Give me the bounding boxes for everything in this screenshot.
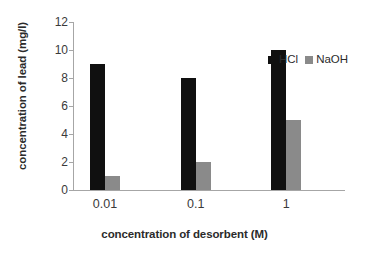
y-axis-title: concentration of lead (mg/l): [12, 0, 32, 196]
x-axis-tick-labels: 0.010.11: [73, 196, 345, 214]
x-axis-line: [73, 190, 345, 191]
bar-naoh-0.01: [105, 176, 120, 190]
y-axis-tick-label: 4: [44, 128, 68, 140]
bar-chart-figure: concentration of lead (mg/l) 121086420 0…: [0, 0, 369, 257]
bar-naoh-0.1: [196, 162, 211, 190]
legend-entry-naoh: NaOH: [305, 54, 348, 65]
bar-hcl-0.01: [90, 64, 105, 190]
y-axis-tick-label: 2: [44, 156, 68, 168]
legend-label: HCl: [279, 54, 298, 65]
plot-area: [73, 22, 345, 190]
x-axis-tick-label: 0.01: [75, 196, 135, 212]
bar-naoh-1: [286, 120, 301, 190]
y-axis-tick-mark: [69, 190, 73, 191]
legend-label: NaOH: [316, 54, 348, 65]
y-axis-tick-mark: [69, 22, 73, 23]
y-axis-tick-label: 10: [44, 44, 68, 56]
y-axis-tick-mark: [69, 78, 73, 79]
chart-legend: HClNaOH: [268, 54, 348, 65]
y-axis-tick-label: 8: [44, 72, 68, 84]
y-axis-tick-label: 12: [44, 16, 68, 28]
y-axis-tick-label: 6: [44, 100, 68, 112]
y-axis-tick-labels: 121086420: [40, 22, 68, 190]
x-axis-tick-label: 1: [256, 196, 316, 212]
gray-square-icon: [305, 56, 313, 64]
x-axis-tick-label: 0.1: [166, 196, 226, 212]
bar-hcl-0.1: [181, 78, 196, 190]
y-axis-tick-mark: [69, 134, 73, 135]
legend-entry-hcl: HCl: [268, 54, 298, 65]
x-axis-title: concentration of desorbent (M): [0, 228, 369, 240]
y-axis-tick-mark: [69, 162, 73, 163]
y-axis-tick-mark: [69, 106, 73, 107]
bars-layer: [73, 22, 345, 190]
y-axis-tick-mark: [69, 50, 73, 51]
bar-hcl-1: [271, 50, 286, 190]
y-axis-tick-label: 0: [44, 184, 68, 196]
black-square-icon: [268, 56, 276, 64]
